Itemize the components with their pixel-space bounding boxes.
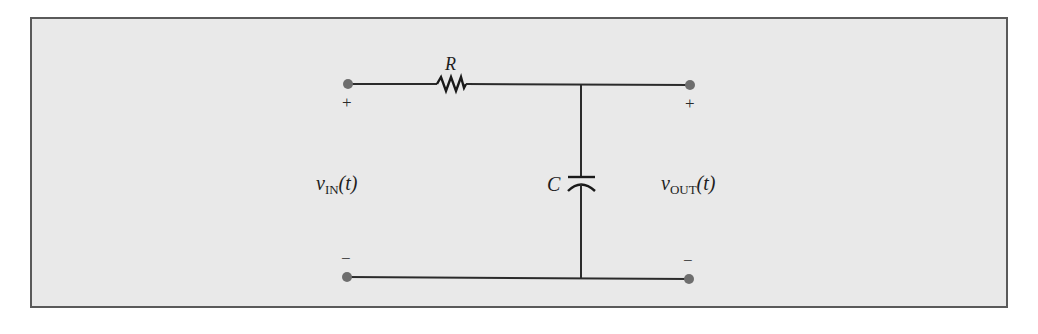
terminal-in-negative (342, 272, 352, 282)
output-voltage-arg: (t) (697, 172, 716, 194)
output-voltage-subscript: OUT (670, 182, 697, 197)
terminal-in-positive (343, 79, 353, 89)
circuit-schematic (0, 0, 1038, 334)
output-voltage-label: vOUT(t) (661, 173, 716, 193)
input-voltage-arg: (t) (339, 172, 358, 194)
input-voltage-subscript: IN (325, 182, 339, 197)
top-wire-right (466, 84, 690, 85)
input-voltage-symbol: v (316, 172, 325, 194)
resistor-icon (437, 77, 466, 91)
output-voltage-symbol: v (661, 172, 670, 194)
resistor-label: R (445, 55, 456, 73)
terminal-out-positive (685, 80, 695, 90)
input-minus-sign: − (341, 250, 351, 267)
capacitor-label: C (547, 174, 560, 194)
input-voltage-label: vIN(t) (316, 173, 358, 193)
output-minus-sign: − (683, 252, 693, 269)
bottom-wire (347, 277, 690, 279)
output-plus-sign: + (685, 95, 695, 112)
terminal-out-negative (684, 274, 694, 284)
input-plus-sign: + (342, 94, 352, 111)
